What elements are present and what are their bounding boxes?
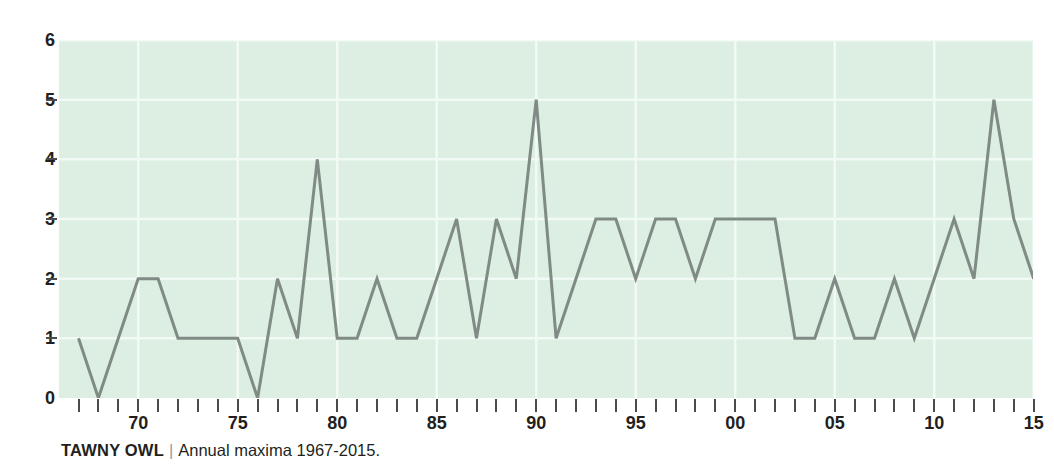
x-tick-label-1985: 85 <box>415 414 459 434</box>
x-tick-1970 <box>137 399 139 412</box>
x-tick-1990 <box>535 399 537 412</box>
x-tick-1991 <box>555 399 557 412</box>
x-tick-1980 <box>336 399 338 412</box>
x-tick-2010 <box>933 399 935 412</box>
x-tick-2015 <box>1033 399 1035 412</box>
data-series-line <box>79 100 1034 398</box>
x-tick-1995 <box>635 399 637 412</box>
x-tick-1994 <box>615 399 617 412</box>
x-tick-2005 <box>834 399 836 412</box>
y-tick-label-0: 0 <box>29 389 55 407</box>
x-tick-1984 <box>416 399 418 412</box>
x-tick-1971 <box>157 399 159 412</box>
x-tick-1999 <box>714 399 716 412</box>
y-tick-mark-1 <box>46 337 57 339</box>
x-tick-2000 <box>734 399 736 412</box>
x-tick-1977 <box>277 399 279 412</box>
x-tick-1967 <box>78 399 80 412</box>
x-tick-2006 <box>854 399 856 412</box>
x-tick-label-2015: 15 <box>1012 414 1054 434</box>
y-tick-mark-4 <box>46 158 57 160</box>
x-tick-1973 <box>197 399 199 412</box>
x-tick-1997 <box>675 399 677 412</box>
caption-description: Annual maxima 1967-2015. <box>178 441 380 459</box>
x-tick-1985 <box>436 399 438 412</box>
x-tick-label-1980: 80 <box>315 414 359 434</box>
x-tick-2008 <box>893 399 895 412</box>
x-tick-label-2000: 00 <box>713 414 757 434</box>
caption: TAWNY OWL|Annual maxima 1967-2015. <box>61 440 380 461</box>
x-tick-1972 <box>177 399 179 412</box>
x-tick-2003 <box>794 399 796 412</box>
x-tick-1975 <box>237 399 239 412</box>
x-tick-label-2010: 10 <box>912 414 956 434</box>
y-axis: 0123456 <box>0 0 55 465</box>
x-tick-2012 <box>973 399 975 412</box>
x-tick-2009 <box>913 399 915 412</box>
x-tick-label-1970: 70 <box>116 414 160 434</box>
x-tick-1998 <box>694 399 696 412</box>
y-tick-mark-2 <box>46 278 57 280</box>
x-tick-1968 <box>97 399 99 412</box>
plot-area <box>59 40 1033 398</box>
x-tick-label-1990: 90 <box>514 414 558 434</box>
horizontal-gridlines <box>59 40 1033 338</box>
x-tick-2011 <box>953 399 955 412</box>
x-tick-1986 <box>456 399 458 412</box>
x-tick-2001 <box>754 399 756 412</box>
x-tick-1996 <box>655 399 657 412</box>
x-tick-1981 <box>356 399 358 412</box>
x-tick-1969 <box>117 399 119 412</box>
x-tick-2014 <box>1013 399 1015 412</box>
x-axis-ticks <box>59 399 1033 414</box>
x-tick-label-1995: 95 <box>614 414 658 434</box>
x-tick-1987 <box>476 399 478 412</box>
x-tick-1993 <box>595 399 597 412</box>
x-tick-1992 <box>575 399 577 412</box>
x-tick-2013 <box>993 399 995 412</box>
x-tick-1988 <box>495 399 497 412</box>
caption-separator: | <box>164 441 178 459</box>
x-tick-1989 <box>515 399 517 412</box>
y-tick-label-6: 6 <box>29 31 55 49</box>
x-tick-label-2005: 05 <box>813 414 857 434</box>
x-tick-1976 <box>257 399 259 412</box>
x-tick-label-1975: 75 <box>216 414 260 434</box>
x-tick-2002 <box>774 399 776 412</box>
x-tick-2004 <box>814 399 816 412</box>
x-tick-1978 <box>296 399 298 412</box>
y-tick-mark-3 <box>46 218 57 220</box>
y-tick-mark-5 <box>46 99 57 101</box>
x-tick-2007 <box>874 399 876 412</box>
x-tick-1974 <box>217 399 219 412</box>
x-axis-labels: 70758085909500051015 <box>59 414 1033 440</box>
x-tick-1979 <box>316 399 318 412</box>
x-tick-1982 <box>376 399 378 412</box>
x-tick-1983 <box>396 399 398 412</box>
caption-species: TAWNY OWL <box>61 441 164 459</box>
line-chart-svg <box>59 40 1033 398</box>
tawny-owl-annual-maxima-figure: 0123456 70758085909500051015 TAWNY OWL|A… <box>0 0 1054 465</box>
